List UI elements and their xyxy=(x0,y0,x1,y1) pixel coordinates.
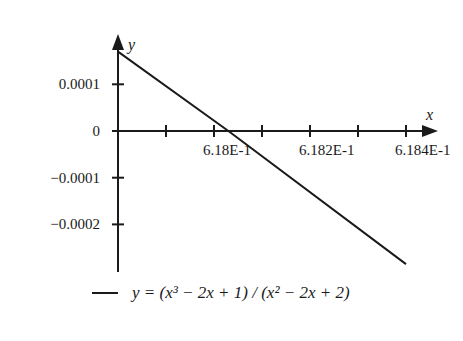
legend-label: y = (x³ − 2x + 1) / (x² − 2x + 2) xyxy=(132,283,350,303)
x-tick-label: 6.182E-1 xyxy=(299,142,354,158)
x-axis-arrow-icon xyxy=(422,125,438,137)
y-tick-label: −0.0002 xyxy=(50,216,100,232)
y-tick-label: 0.0001 xyxy=(59,76,100,92)
y-axis-name: y xyxy=(126,36,136,54)
series-lines xyxy=(118,52,406,264)
x-axis-name: x xyxy=(425,106,433,123)
y-tick-label: 0 xyxy=(93,123,101,139)
legend-line-swatch xyxy=(92,292,118,294)
x-tick-label: 6.184E-1 xyxy=(395,142,450,158)
y-axis-arrow-icon xyxy=(112,34,124,50)
x-tick-label: 6.18E-1 xyxy=(203,142,251,158)
x-ticks: 6.18E-16.182E-16.184E-1 xyxy=(166,125,450,158)
legend: y = (x³ − 2x + 1) / (x² − 2x + 2) xyxy=(92,283,350,303)
y-ticks: 0.00010−0.0001−0.0002 xyxy=(50,76,124,232)
series-line xyxy=(118,52,406,264)
y-tick-label: −0.0001 xyxy=(50,170,100,186)
